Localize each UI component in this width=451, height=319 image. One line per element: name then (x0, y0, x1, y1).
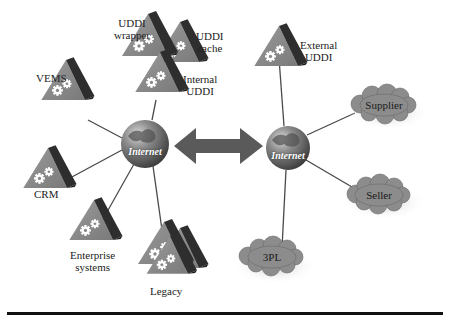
label-line: VEMS (36, 72, 67, 84)
label-line: CRM (34, 188, 58, 200)
label-uddi-cache: UDDI cache (196, 30, 224, 54)
label-line: cache (196, 42, 224, 54)
globe-right-icon (266, 126, 310, 170)
right-hub-label: Internet (263, 150, 313, 161)
label-supplier: Supplier (349, 99, 419, 111)
label-line: UDDI (183, 85, 217, 97)
label-external-uddi: External UDDI (300, 39, 337, 63)
label-line: UDDI (300, 51, 337, 63)
label-crm: CRM (34, 188, 58, 200)
left-hub-label: Internet (120, 146, 170, 157)
label-line: systems (70, 261, 115, 273)
node-crm (23, 145, 76, 188)
diagram-canvas: Internet Internet UDDI wrapper UDDI cach… (0, 0, 451, 319)
bidirectional-arrow-icon (174, 128, 263, 164)
label-3pl: 3PL (237, 251, 307, 263)
label-seller: Seller (344, 189, 414, 201)
bottom-rule (7, 312, 443, 315)
label-line: UDDI (196, 30, 224, 42)
globe-left-icon (121, 120, 169, 168)
label-uddi-wrapper: UDDI wrapper (114, 17, 150, 41)
node-enterprise-systems (69, 197, 122, 240)
label-line: Internal (183, 73, 217, 85)
label-line: Enterprise (70, 249, 115, 261)
diagram-svg (0, 0, 451, 319)
label-enterprise-systems: Enterprise systems (70, 249, 115, 273)
label-line: UDDI (114, 17, 150, 29)
label-line: Legacy (150, 285, 182, 297)
label-line: wrapper (114, 29, 150, 41)
label-vems: VEMS (36, 72, 67, 84)
label-line: External (300, 39, 337, 51)
label-internal-uddi: Internal UDDI (183, 73, 217, 97)
label-legacy: Legacy (150, 285, 182, 297)
